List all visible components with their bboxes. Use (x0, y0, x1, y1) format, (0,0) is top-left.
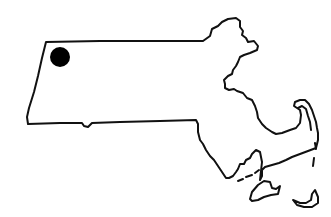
cape-elbow (315, 143, 316, 149)
cape-outer-dash (313, 158, 314, 166)
nantucket (293, 190, 318, 207)
marthas-vineyard (250, 181, 280, 201)
state-outline (27, 18, 318, 180)
state-map (0, 0, 331, 217)
location-marker (50, 47, 70, 67)
massachusetts-outline-map (0, 0, 331, 217)
elizabeth-islands (238, 170, 259, 181)
